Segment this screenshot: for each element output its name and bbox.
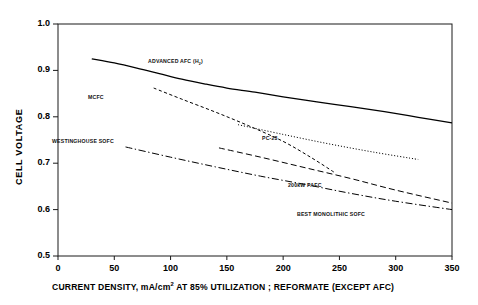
x-tick-label-3: 150 <box>207 263 247 273</box>
chart-figure: CELL VOLTAGE CURRENT DENSITY, mA/cm2 AT … <box>0 0 478 305</box>
curve-3 <box>219 148 452 203</box>
x-tick-label-1: 50 <box>94 263 134 273</box>
x-tick-label-4: 200 <box>263 263 303 273</box>
curve-label-text-4: BEST MONOLITHIC SOFC <box>297 211 365 217</box>
curve-label-0: ADVANCED AFC (H2) <box>148 58 203 66</box>
curve-label-text-0: ADVANCED AFC (H <box>148 58 199 64</box>
plot-frame <box>58 24 452 256</box>
y-tick-label-5: 1.0 <box>24 18 50 28</box>
y-tick-label-0: 0.5 <box>24 250 50 260</box>
x-axis-title-post: AT 85% UTILIZATION ; REFORMATE (EXCEPT A… <box>174 282 394 292</box>
curve-label-4: BEST MONOLITHIC SOFC <box>297 211 365 217</box>
curve-label-text-5: WESTINGHOUSE SOFC <box>52 138 114 144</box>
curve-label-3: 200kW PAFC <box>288 182 322 188</box>
x-tick-label-7: 350 <box>432 263 472 273</box>
y-tick-label-1: 0.6 <box>24 204 50 214</box>
curve-2 <box>238 125 418 160</box>
curve-label-2: PC-23 <box>262 135 278 141</box>
y-axis-title: CELL VOLTAGE <box>14 109 24 185</box>
y-tick-label-2: 0.7 <box>24 157 50 167</box>
curve-label-text-1: MCFC <box>88 94 104 100</box>
x-tick-label-0: 0 <box>38 263 78 273</box>
curve-label-text-3: 200kW PAFC <box>288 182 322 188</box>
x-axis-title-pre: CURRENT DENSITY, mA/cm <box>52 282 171 292</box>
x-tick-label-2: 100 <box>151 263 191 273</box>
y-tick-label-4: 0.9 <box>24 64 50 74</box>
curve-0 <box>92 59 452 123</box>
curve-label-post-0: ) <box>201 58 203 64</box>
curve-label-text-2: PC-23 <box>262 135 278 141</box>
curve-label-5: WESTINGHOUSE SOFC <box>52 138 114 144</box>
y-tick-label-3: 0.8 <box>24 111 50 121</box>
x-axis-title: CURRENT DENSITY, mA/cm2 AT 85% UTILIZATI… <box>52 281 394 292</box>
curve-label-1: MCFC <box>88 94 104 100</box>
plot-area <box>0 0 478 305</box>
x-tick-label-6: 300 <box>376 263 416 273</box>
x-tick-label-5: 250 <box>319 263 359 273</box>
curve-4 <box>126 147 452 210</box>
